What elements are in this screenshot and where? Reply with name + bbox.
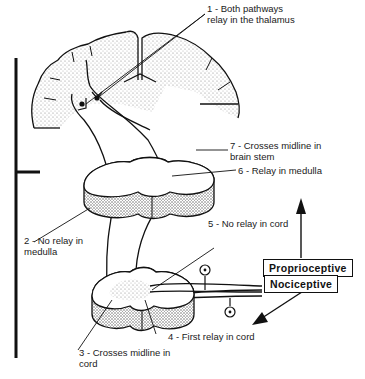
label-6-line1: 6 - Relay in medulla [238,166,322,177]
label-2-line2: medulla [24,247,83,258]
label-6-medulla-relay: 6 - Relay in medulla [238,166,322,177]
label-4-line1: 4 - First relay in cord [168,332,255,343]
label-5-no-relay-cord: 5 - No relay in cord [208,219,288,230]
label-7-line1: 7 - Crosses midline in [230,141,321,152]
label-3-crosses-cord: 3 - Crosses midline in cord [79,348,170,369]
nociceptive-box: Nociceptive [264,275,338,293]
label-2-no-relay-medulla: 2 - No relay in medulla [24,236,83,257]
label-1-thalamus: 1 - Both pathways relay in the thalamus [207,4,295,25]
brain-cortex [32,31,239,128]
label-7-line2: brain stem [230,152,321,163]
spinal-cord-section [92,268,262,331]
label-3-line1: 3 - Crosses midline in [79,348,170,359]
label-1-line1: 1 - Both pathways [207,4,295,15]
label-1-line2: relay in the thalamus [207,15,295,26]
label-2-line1: 2 - No relay in [24,236,83,247]
label-7-brainstem: 7 - Crosses midline in brain stem [230,141,321,162]
pathway-diagram [0,0,365,379]
label-3-line2: cord [79,359,170,370]
label-4-first-relay-cord: 4 - First relay in cord [168,332,255,343]
medulla-section [84,158,214,219]
label-5-line1: 5 - No relay in cord [208,219,288,230]
